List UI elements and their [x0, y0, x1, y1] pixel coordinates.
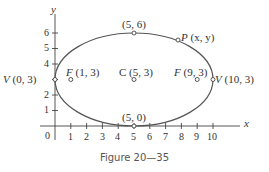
right-vertex-letter: V	[215, 73, 222, 85]
right-focus-label: F (9, 3)	[174, 67, 207, 78]
left-focus-label: F (1, 3)	[66, 67, 99, 78]
y-tick-label: 6	[44, 28, 49, 38]
x-tick-label: 10	[207, 132, 217, 142]
top-point-label: (5, 6)	[122, 19, 146, 30]
x-tick-label: 9	[194, 132, 199, 142]
left-vertex-point	[53, 78, 57, 82]
left-vertex-coords: (0, 3)	[12, 73, 36, 85]
center-coords: (5, 3)	[129, 66, 153, 78]
x-tick-label: 5	[131, 132, 136, 142]
x-tick-label: 6	[147, 132, 152, 142]
left-focus-letter: F	[66, 66, 73, 78]
y-tick-label: 2	[44, 90, 49, 100]
point-p-label: P (x, y)	[181, 32, 214, 43]
left-focus-coords: (1, 3)	[75, 66, 99, 78]
right-vertex-coords: (10, 3)	[224, 73, 253, 85]
y-tick-label: 1	[44, 105, 49, 115]
x-axis-label: x	[244, 118, 249, 129]
x-tick-label: 2	[84, 132, 89, 142]
point-p-letter: P	[181, 31, 188, 43]
right-vertex-label: V (10, 3)	[215, 74, 254, 85]
x-tick-label: 7	[163, 132, 168, 142]
x-tick-label: 8	[179, 132, 184, 142]
top-point	[132, 31, 136, 35]
bottom-point-label: (5, 0)	[122, 112, 146, 123]
x-tick-label: 3	[100, 132, 105, 142]
y-tick-label: 4	[44, 59, 49, 69]
y-tick-label: 5	[44, 43, 49, 53]
right-focus-point	[195, 78, 199, 82]
left-vertex-label: V (0, 3)	[3, 74, 36, 85]
y-axis-label: y	[51, 4, 56, 15]
right-focus-letter: F	[174, 66, 181, 78]
point-p	[176, 38, 180, 42]
point-p-coords: (x, y)	[190, 31, 214, 43]
center-letter: C	[119, 66, 126, 78]
figure-caption: Figure 20—35	[0, 152, 269, 163]
x-tick-label: 4	[115, 132, 120, 142]
x-tick-label: 1	[68, 132, 73, 142]
bottom-point	[132, 124, 136, 128]
center-label: C (5, 3)	[119, 67, 153, 78]
center-point	[132, 78, 136, 82]
origin-label: 0	[45, 131, 50, 141]
right-focus-coords: (9, 3)	[183, 66, 207, 78]
left-vertex-letter: V	[3, 73, 10, 85]
left-focus-point	[69, 78, 73, 82]
